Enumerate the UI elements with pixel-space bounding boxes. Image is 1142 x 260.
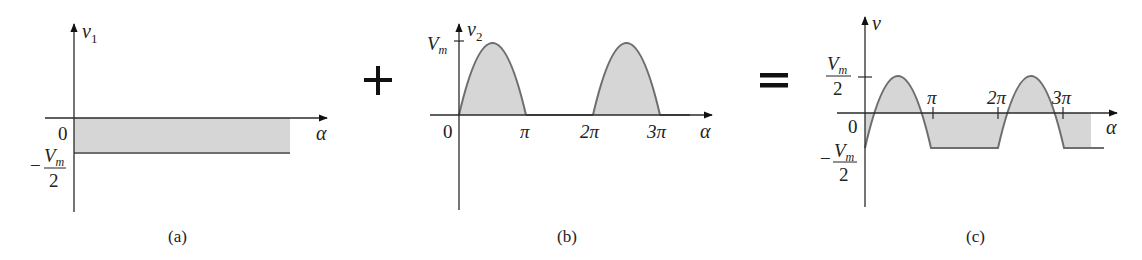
svg-text:−: − <box>820 148 831 169</box>
svg-text:2: 2 <box>49 170 59 191</box>
svg-text:Vm: Vm <box>827 53 848 77</box>
origin-label: 0 <box>848 116 858 137</box>
x-axis-label: α <box>700 120 711 142</box>
tick-pi: π <box>927 87 937 108</box>
y-axis-label: v2 <box>467 18 482 44</box>
caption-b: (b) <box>557 227 577 246</box>
tick-2pi: 2π <box>580 121 600 142</box>
dc-level-fill <box>74 118 290 153</box>
waveform-addition-diagram: v1 α 0 − Vm 2 (a) v2 Vm 0 π 2π 3π α (b) <box>0 0 1142 260</box>
origin-label: 0 <box>443 121 453 142</box>
tick-2pi: 2π <box>987 87 1007 108</box>
x-axis-label: α <box>316 122 327 144</box>
tick-3pi: 3π <box>646 121 667 142</box>
panel-b: v2 Vm 0 π 2π 3π α (b) <box>427 18 712 246</box>
peak-label: Vm <box>427 33 448 57</box>
panel-c: v 0 π 2π 3π α Vm 2 − Vm 2 (c) <box>820 12 1117 246</box>
equals-operator <box>760 73 788 88</box>
tick-3pi: 3π <box>1051 87 1072 108</box>
y-axis-label: v <box>872 12 881 34</box>
caption-c: (c) <box>966 227 985 246</box>
svg-text:Vm: Vm <box>834 140 855 164</box>
neg-level-label: − Vm 2 <box>820 140 857 185</box>
svg-text:Vm: Vm <box>44 145 65 169</box>
panel-a: v1 α 0 − Vm 2 (a) <box>30 20 327 246</box>
pos-level-label: Vm 2 <box>826 53 851 99</box>
origin-label: 0 <box>58 123 68 144</box>
x-axis-label: α <box>1106 116 1117 138</box>
svg-text:−: − <box>30 155 41 176</box>
y-axis-label: v1 <box>82 20 97 46</box>
svg-text:2: 2 <box>839 164 849 185</box>
neg-level-label: − Vm 2 <box>30 145 66 191</box>
svg-text:2: 2 <box>833 78 843 99</box>
tick-pi: π <box>520 121 530 142</box>
caption-a: (a) <box>168 227 187 246</box>
plus-operator <box>364 66 392 95</box>
